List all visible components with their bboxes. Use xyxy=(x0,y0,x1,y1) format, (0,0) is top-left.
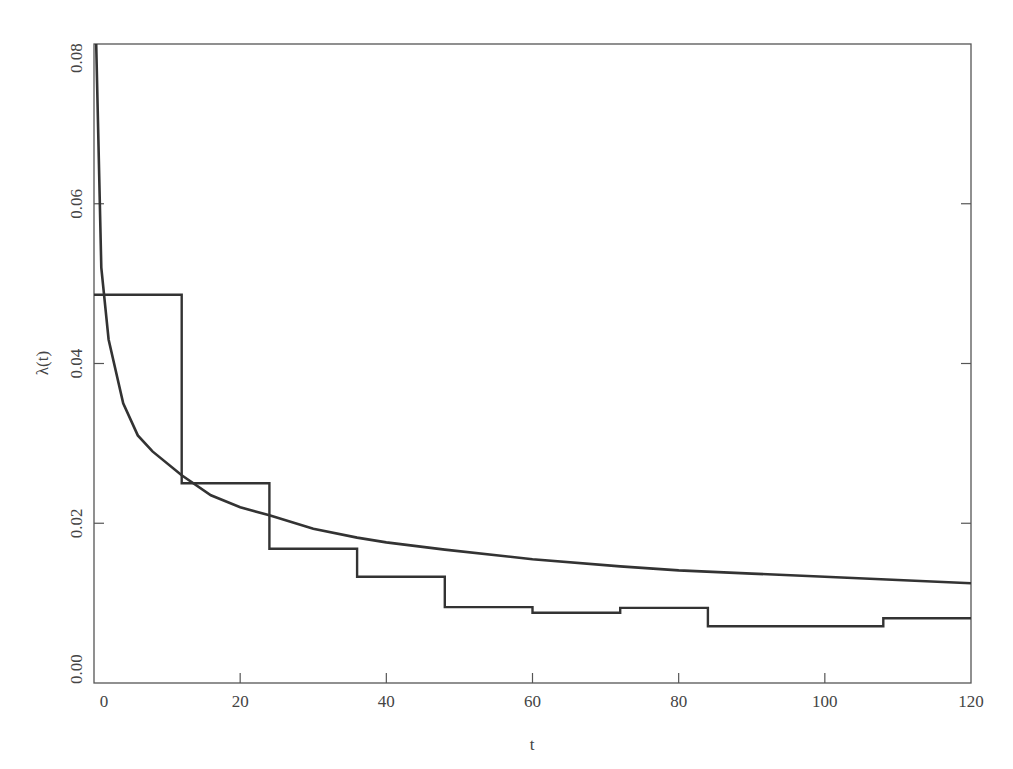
x-tick-label: 40 xyxy=(378,692,395,711)
plot-frame xyxy=(94,44,971,683)
y-tick-label: 0.06 xyxy=(67,189,86,219)
y-axis-ticks: 0.000.020.040.060.08 xyxy=(67,43,971,684)
x-tick-label: 100 xyxy=(812,692,838,711)
x-axis-label: t xyxy=(530,735,535,754)
x-tick-label: 0 xyxy=(100,692,109,711)
x-tick-label: 80 xyxy=(670,692,687,711)
hazard-chart: 020406080100120 0.000.020.040.060.08 t λ… xyxy=(0,0,1013,769)
y-tick-label: 0.08 xyxy=(67,43,86,73)
smooth-hazard-curve xyxy=(96,44,971,583)
y-tick-label: 0.02 xyxy=(67,508,86,538)
x-tick-label: 20 xyxy=(232,692,249,711)
y-tick-label: 0.04 xyxy=(67,348,86,378)
x-tick-label: 120 xyxy=(958,692,984,711)
y-tick-label: 0.00 xyxy=(67,654,86,684)
x-tick-label: 60 xyxy=(524,692,541,711)
y-axis-label: λ(t) xyxy=(33,351,52,375)
x-axis-ticks: 020406080100120 xyxy=(100,673,984,711)
